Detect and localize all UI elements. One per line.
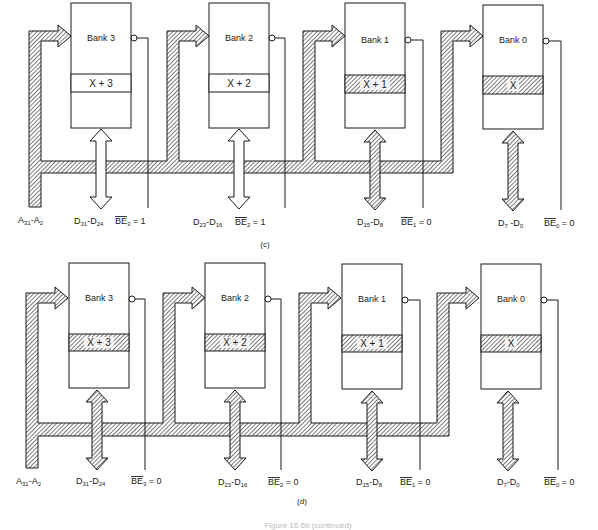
- data-label-d31-d24: D31-D24: [74, 216, 104, 227]
- active-low-bubble-icon: [269, 35, 275, 41]
- signal-labels-d: A31-A2 D31-D24 BE3 = 0 D23-D16 BE2 = 0 D…: [16, 476, 575, 506]
- be0-line: [549, 41, 561, 210]
- figure-caption: Figure 16.6b (continued): [264, 521, 352, 530]
- be0-label: BE0 = 0: [544, 218, 575, 229]
- active-low-bubble-icon: [265, 296, 271, 302]
- be1-line: [411, 40, 423, 208]
- be1-line: [408, 300, 420, 470]
- row-label: X + 3: [89, 78, 113, 89]
- active-low-bubble-icon: [405, 37, 411, 43]
- bank-2: Bank 2 X + 2: [205, 263, 281, 470]
- address-bus-label: A31-A2: [18, 215, 44, 226]
- active-low-bubble-icon: [129, 296, 135, 302]
- bank-0: Bank 0 X: [481, 264, 558, 471]
- bank-1: Bank 1 X + 1: [342, 264, 420, 471]
- bank-1: Bank 1 X + 1: [345, 3, 423, 210]
- bank-label: Bank 1: [358, 294, 386, 304]
- data-label-d7-d0: D7 -D0: [498, 218, 524, 229]
- bank-label: Bank 3: [87, 33, 115, 43]
- data-label-d7-d0: D7-D0: [497, 477, 520, 488]
- be0-line: [547, 300, 558, 470]
- memory-bank-diagram: Bank 3 X + 3 Bank 2 X + 2 Bank 1 X + 1: [0, 0, 598, 530]
- bank-3: Bank 3 X + 3: [71, 3, 148, 209]
- panel-d: Bank 3 X + 3 Bank 2 X + 2 Bank 1 X + 1: [16, 263, 575, 506]
- address-bus-label: A31-A2: [16, 476, 42, 487]
- panel-label-d: (d): [297, 497, 307, 506]
- data-label-d15-d8: D15-D8: [356, 477, 383, 488]
- active-low-bubble-icon: [541, 297, 547, 303]
- bank-label: Bank 2: [225, 33, 253, 43]
- row-label: X + 3: [87, 337, 111, 348]
- active-low-bubble-icon: [402, 297, 408, 303]
- data-bus-arrow-icon: [497, 391, 519, 471]
- be3-line: [135, 299, 145, 470]
- be0-label: BE0 = 0: [544, 477, 575, 488]
- data-label-d23-d16: D23-D16: [193, 217, 223, 228]
- row-label: X + 1: [363, 79, 387, 90]
- data-bus-arrow-icon: [502, 131, 524, 211]
- row-label: X: [510, 80, 517, 91]
- bank-label: Bank 0: [499, 35, 527, 45]
- be2-line: [271, 299, 281, 470]
- bank-label: Bank 2: [221, 293, 249, 303]
- bank-0: Bank 0 X: [483, 5, 561, 211]
- data-label-d15-d8: D15-D8: [357, 217, 384, 228]
- be3-label: BE3 = 0: [131, 476, 162, 487]
- data-label-d23-d16: D23-D16: [218, 477, 248, 488]
- be3-label: BE3 = 1: [115, 216, 146, 227]
- bank-label: Bank 0: [497, 294, 525, 304]
- row-label: X: [508, 338, 515, 349]
- be2-line: [275, 38, 285, 208]
- row-label: X + 2: [227, 78, 251, 89]
- row-label: X + 2: [223, 337, 247, 348]
- be1-label: BE1 = 0: [401, 217, 432, 228]
- be2-label: BE2 = 1: [235, 217, 266, 228]
- panel-c: Bank 3 X + 3 Bank 2 X + 2 Bank 1 X + 1: [18, 3, 575, 249]
- bank-label: Bank 1: [361, 35, 389, 45]
- data-label-d31-d24: D31-D24: [76, 476, 106, 487]
- signal-labels-c: A31-A2 D31-D24 BE3 = 1 D23-D16 BE2 = 1 D…: [18, 215, 575, 249]
- bank-3: Bank 3 X + 3: [69, 263, 145, 470]
- active-low-bubble-icon: [543, 38, 549, 44]
- active-low-bubble-icon: [131, 35, 137, 41]
- row-label: X + 1: [360, 338, 384, 349]
- bank-2: Bank 2 X + 2: [209, 3, 285, 209]
- panel-label-c: (c): [260, 240, 270, 249]
- be1-label: BE1 = 0: [400, 477, 431, 488]
- be2-label: BE2 = 0: [268, 477, 299, 488]
- bank-label: Bank 3: [85, 293, 113, 303]
- be3-line: [137, 38, 148, 208]
